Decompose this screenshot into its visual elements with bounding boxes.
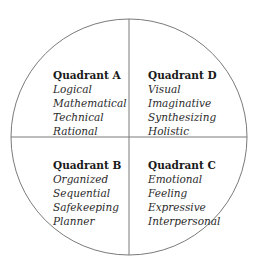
quadrant-d-title: Quadrant D: [148, 68, 217, 82]
quadrant-b-trait: Safekeeping: [53, 200, 121, 214]
quadrant-a: Quadrant A Logical Mathematical Technica…: [53, 68, 127, 138]
quadrant-c-trait: Feeling: [148, 186, 220, 200]
quadrant-c-title: Quadrant C: [148, 158, 220, 172]
quadrant-b-trait: Organized: [53, 172, 121, 186]
quadrant-a-trait: Technical: [53, 110, 127, 124]
quadrant-c-trait: Emotional: [148, 172, 220, 186]
quadrant-c: Quadrant C Emotional Feeling Expressive …: [148, 158, 220, 228]
quadrant-a-trait: Mathematical: [53, 96, 127, 110]
quadrant-d-trait: Synthesizing: [148, 110, 217, 124]
quadrant-b-title: Quadrant B: [53, 158, 121, 172]
quadrant-a-title: Quadrant A: [53, 68, 127, 82]
quadrant-a-trait: Logical: [53, 82, 127, 96]
quadrant-c-trait: Interpersonal: [148, 214, 220, 228]
quadrant-c-trait: Expressive: [148, 200, 220, 214]
quadrant-d-trait: Visual: [148, 82, 217, 96]
quadrant-b-trait: Sequential: [53, 186, 121, 200]
quadrant-b: Quadrant B Organized Sequential Safekeep…: [53, 158, 121, 228]
quadrant-a-trait: Rational: [53, 124, 127, 138]
quadrant-d-trait: Holistic: [148, 124, 217, 138]
quadrant-d-trait: Imaginative: [148, 96, 217, 110]
quadrant-b-trait: Planner: [53, 214, 121, 228]
quadrant-d: Quadrant D Visual Imaginative Synthesizi…: [148, 68, 217, 138]
